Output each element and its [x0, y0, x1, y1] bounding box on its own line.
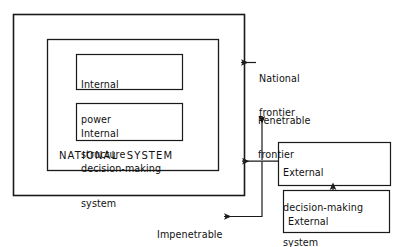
external-power-structure-label: External power structure	[288, 193, 332, 247]
national-system-title: NATIONAL SYSTEM	[59, 150, 173, 161]
internal-decision-making-line-2: decision-making	[81, 163, 161, 175]
external-power-structure-line-1: External	[288, 216, 332, 228]
impenetrable-frontier-pointer-path	[224, 162, 262, 217]
internal-decision-making-system-label: Internal decision-making system	[81, 105, 161, 233]
internal-decision-making-line-1: Internal	[81, 128, 161, 140]
national-frontier-line-1: National	[259, 73, 300, 84]
internal-decision-making-line-3: system	[81, 198, 161, 210]
impenetrable-frontier-annotation: Impenetrable frontier	[157, 206, 223, 247]
penetrable-frontier-line-1: Penetrable	[258, 115, 311, 126]
penetrable-frontier-line-2: frontier	[258, 149, 311, 160]
diagram-canvas: Internal power structure Internal decisi…	[0, 0, 397, 247]
penetrable-frontier-annotation: Penetrable frontier	[258, 92, 311, 183]
impenetrable-frontier-line-1: Impenetrable	[157, 229, 223, 240]
internal-power-structure-line-1: Internal	[81, 79, 125, 91]
